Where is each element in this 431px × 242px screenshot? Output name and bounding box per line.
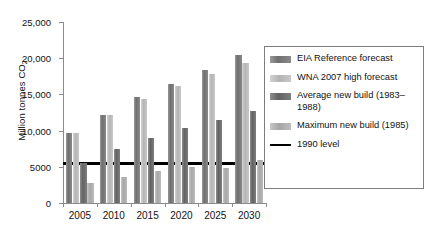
y-tick-label: 20,000 bbox=[22, 53, 51, 64]
bar-2025-series-0 bbox=[202, 70, 208, 203]
y-tick-mark bbox=[59, 94, 63, 95]
legend-color-swatch bbox=[270, 93, 291, 100]
x-tick-label-2020: 2020 bbox=[170, 210, 192, 221]
bar-2030-series-1 bbox=[242, 63, 248, 203]
bar-2030-series-2 bbox=[250, 111, 256, 203]
bar-2025-series-2 bbox=[216, 120, 222, 203]
bar-2010-series-2 bbox=[114, 149, 120, 203]
bar-2005-series-0 bbox=[66, 133, 72, 203]
bar-2005-series-2 bbox=[80, 163, 86, 203]
legend-label: Maximum new build (1985) bbox=[297, 120, 409, 132]
x-tick-label-2005: 2005 bbox=[69, 210, 91, 221]
y-tick-mark bbox=[59, 167, 63, 168]
x-tick-label-2030: 2030 bbox=[238, 210, 260, 221]
y-tick-mark bbox=[59, 58, 63, 59]
bar-2025-series-1 bbox=[209, 74, 215, 203]
x-tick-mark bbox=[97, 203, 98, 207]
bar-2030-series-3 bbox=[257, 160, 263, 203]
legend-color-swatch bbox=[270, 123, 291, 130]
legend-label: WNA 2007 high forecast bbox=[297, 72, 397, 84]
legend-item-4: 1990 level bbox=[270, 139, 419, 151]
y-tick-label: 10,000 bbox=[22, 125, 51, 136]
bar-2010-series-0 bbox=[100, 115, 106, 203]
y-tick-label: 5000 bbox=[30, 161, 51, 172]
x-tick-label-2015: 2015 bbox=[136, 210, 158, 221]
bar-2015-series-1 bbox=[141, 99, 147, 203]
bar-2015-series-3 bbox=[155, 171, 161, 203]
x-tick-mark bbox=[63, 203, 64, 207]
legend-item-2: Average new build (1983–1988) bbox=[270, 90, 419, 113]
bar-2010-series-1 bbox=[107, 115, 113, 203]
legend-item-0: EIA Reference forecast bbox=[270, 53, 419, 65]
bar-2015-series-2 bbox=[148, 138, 154, 203]
y-tick-mark bbox=[59, 131, 63, 132]
x-tick-mark bbox=[232, 203, 233, 207]
x-tick-mark bbox=[131, 203, 132, 207]
legend-color-swatch bbox=[270, 75, 291, 82]
bar-2030-series-0 bbox=[235, 55, 241, 203]
bar-2025-series-3 bbox=[223, 168, 229, 203]
x-tick-mark bbox=[266, 203, 267, 207]
x-tick-label-2010: 2010 bbox=[103, 210, 125, 221]
plot-area bbox=[63, 22, 266, 203]
y-axis-tick-labels: 0500010,00015,00020,00025,000 bbox=[0, 0, 59, 242]
y-tick-label: 25,000 bbox=[22, 17, 51, 28]
legend-line-swatch bbox=[270, 144, 291, 146]
bar-2020-series-3 bbox=[189, 167, 195, 203]
chart-figure: Million tonnes CO2 0500010,00015,00020,0… bbox=[0, 0, 431, 242]
bar-2005-series-1 bbox=[73, 133, 79, 203]
bar-2010-series-3 bbox=[121, 177, 127, 203]
legend-label: EIA Reference forecast bbox=[297, 53, 393, 65]
bar-2020-series-1 bbox=[175, 86, 181, 203]
x-tick-mark bbox=[165, 203, 166, 207]
legend-label: 1990 level bbox=[297, 139, 339, 151]
legend-item-3: Maximum new build (1985) bbox=[270, 120, 419, 132]
legend-label: Average new build (1983–1988) bbox=[297, 90, 419, 113]
x-tick-label-2025: 2025 bbox=[204, 210, 226, 221]
y-tick-mark bbox=[59, 22, 63, 23]
y-tick-label: 0 bbox=[46, 198, 51, 209]
x-tick-mark bbox=[198, 203, 199, 207]
y-tick-label: 15,000 bbox=[22, 89, 51, 100]
bar-2005-series-3 bbox=[87, 183, 93, 203]
bar-2020-series-2 bbox=[182, 128, 188, 203]
legend-item-1: WNA 2007 high forecast bbox=[270, 72, 419, 84]
chart-legend: EIA Reference forecastWNA 2007 high fore… bbox=[264, 46, 424, 189]
bar-2020-series-0 bbox=[168, 84, 174, 203]
legend-color-swatch bbox=[270, 56, 291, 63]
bar-2015-series-0 bbox=[134, 97, 140, 203]
